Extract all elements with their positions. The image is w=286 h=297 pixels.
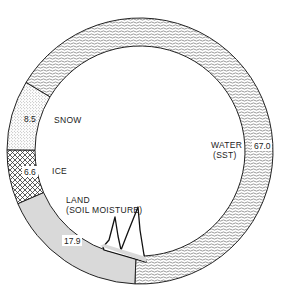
ice-value: 6.6 xyxy=(24,167,36,177)
snow-label: SNOW xyxy=(54,115,82,125)
ice-label: ICE xyxy=(52,166,67,176)
land-label-line1: LAND xyxy=(66,195,90,205)
land-label-line2: (SOIL MOISTURE) xyxy=(66,205,142,215)
water-value: 67.0 xyxy=(254,141,271,151)
water-label-line2: (SST) xyxy=(213,150,237,160)
land-value: 17.9 xyxy=(64,236,81,246)
donut-chart: SNOW 8.5 ICE 6.6 LAND (SOIL MOISTURE) 17… xyxy=(0,0,286,297)
snow-value: 8.5 xyxy=(24,114,36,124)
water-label-line1: WATER xyxy=(211,140,242,150)
